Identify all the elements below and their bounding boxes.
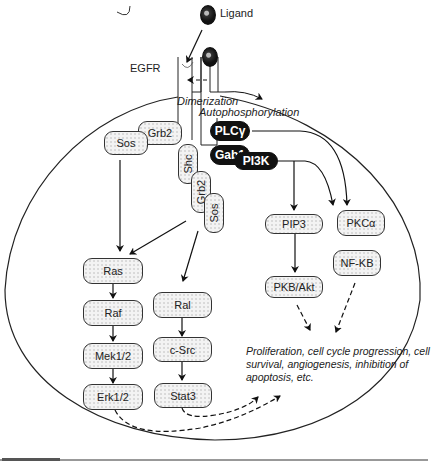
node-sos-left: Sos xyxy=(104,131,148,155)
node-stat3: Stat3 xyxy=(154,383,212,408)
node-raf: Raf xyxy=(83,300,143,326)
node-ras: Ras xyxy=(83,258,143,284)
node-pip3: PIP3 xyxy=(265,214,323,234)
node-erk: Erk1/2 xyxy=(83,384,143,410)
receptor-label: EGFR xyxy=(130,62,161,74)
node-plcg: PLCγ xyxy=(210,121,250,141)
node-ral: Ral xyxy=(153,292,212,318)
autophosphorylation-label: Autophosphorylation xyxy=(199,106,299,118)
bound-ligand-icon xyxy=(202,47,218,67)
node-csrc: c-Src xyxy=(153,337,212,362)
node-pi3k: PI3K xyxy=(234,152,278,170)
node-sos-mid: Sos xyxy=(204,193,224,233)
ligand-icon xyxy=(200,5,216,25)
node-pkb-akt: PKB/Akt xyxy=(265,276,323,298)
outcome-text: Proliferation, cell cycle progression, c… xyxy=(246,345,434,384)
node-pkca: PKCα xyxy=(337,210,385,236)
ligand-arrow xyxy=(187,30,202,62)
node-nfkb: NF-KB xyxy=(333,250,381,276)
ligand-label: Ligand xyxy=(220,7,253,19)
stray-mark xyxy=(117,6,130,15)
node-mek: Mek1/2 xyxy=(83,343,143,369)
